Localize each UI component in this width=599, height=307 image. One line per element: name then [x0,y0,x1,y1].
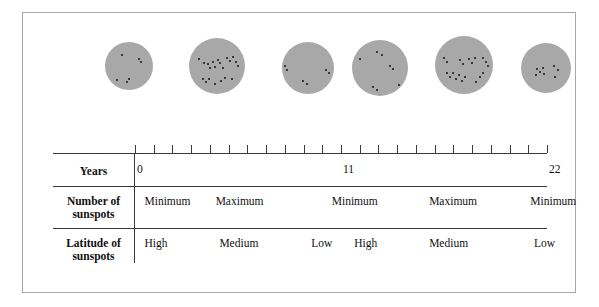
sunspot [398,84,401,87]
sunspot-cycle-figure: Years Number ofsunspots Latitude ofsunsp… [22,12,576,293]
sun-disk [435,36,493,94]
axis-tick [304,145,305,153]
sunspot [222,67,225,70]
sunspot [536,68,539,71]
axis-tick [191,145,192,153]
sunspot [212,61,215,64]
sunspot [449,76,452,79]
axis-tick [547,145,548,153]
sunspot [237,65,240,68]
sunspot [452,72,455,75]
table-rule-vertical [134,154,135,263]
sunspot [376,51,379,54]
sunspot [203,62,206,65]
table-rule-middle-1 [53,186,547,187]
sun-disk [282,42,334,94]
sunspot [140,61,143,64]
cell-number-of-sunspots: Maximum [429,195,477,207]
axis-tick [210,145,211,153]
axis-tick [341,145,342,153]
axis-tick [247,145,248,153]
sunspot [468,58,471,61]
sunspot [487,65,490,68]
cell-latitude-of-sunspots: High [144,237,167,249]
axis-tick [510,145,511,153]
axis-tick [154,145,155,153]
table-rule-middle-2 [53,228,547,229]
axis-tick [360,145,361,153]
sunspot [214,83,217,86]
axis-tick [229,145,230,153]
sunspot [126,81,129,84]
sun-disk-band [23,13,577,148]
sunspot [214,66,217,69]
sunspot [381,54,384,57]
sunspot [543,73,546,76]
cell-number-of-sunspots: Minimum [332,195,378,207]
sunspot [328,72,331,75]
sunspot [116,79,119,82]
sunspot [138,58,141,61]
sunspot [229,60,232,63]
sunspot [198,58,201,61]
sunspot [471,62,474,65]
years-axis [135,143,547,154]
row-label-years: Years [53,165,134,178]
sunspot [325,69,328,72]
sunspot [209,67,212,70]
sunspot [121,54,124,57]
sunspot [205,81,208,84]
sunspot [539,71,542,74]
sunspot [482,57,485,60]
cell-latitude-of-sunspots: Low [311,237,332,249]
sunspot [128,78,131,81]
sunspot [446,61,449,64]
sunspot [535,74,538,77]
sunspot [208,78,211,81]
sunspot [302,80,305,83]
sunspot [475,81,478,84]
sunspot [389,65,392,68]
axis-tick [172,145,173,153]
axis-tick-label: 22 [549,163,561,175]
axis-tick [528,145,529,153]
cell-number-of-sunspots: Minimum [530,195,576,207]
sunspot [479,76,482,79]
sunspot [553,65,556,68]
axis-tick-label: 0 [137,163,143,175]
sunspot [226,57,229,60]
sunspot [232,56,235,59]
axis-line [135,153,547,154]
cell-latitude-of-sunspots: Medium [429,237,468,249]
row-label-latitude-of-sunspots: Latitude ofsunspots [53,237,134,263]
cell-latitude-of-sunspots: Medium [219,237,258,249]
cell-number-of-sunspots: Minimum [144,195,190,207]
sunspot [376,89,379,92]
sunspot [220,80,223,83]
sunspot [482,72,485,75]
sunspot [485,61,488,64]
axis-tick-label: 11 [343,163,354,175]
axis-tick [135,145,136,153]
axis-tick [378,145,379,153]
sunspot [306,83,309,86]
cell-number-of-sunspots: Maximum [216,195,264,207]
axis-tick [266,145,267,153]
row-label-number-of-sunspots: Number ofsunspots [53,195,134,221]
axis-tick [491,145,492,153]
sunspot [542,67,545,70]
sunspot [554,76,557,79]
sunspot [458,74,461,77]
sunspot [459,59,462,62]
sunspot [202,78,205,81]
sunspot [461,80,464,83]
sunspot [284,65,287,68]
axis-tick [285,145,286,153]
sunspot [372,86,375,89]
sunspot [446,72,449,75]
sunspot [235,61,238,64]
sunspot [464,76,467,79]
axis-tick [322,145,323,153]
sun-disk [105,42,153,90]
sun-disk [521,43,571,93]
